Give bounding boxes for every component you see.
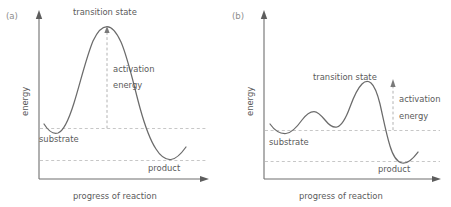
panel-a-substrate-label: substrate	[39, 134, 79, 144]
panel-a-y-axis-title: energy	[20, 87, 30, 116]
reaction-energy-diagram-figure: (a) transition state a	[0, 0, 451, 207]
panel-a: (a) transition state a	[6, 7, 209, 201]
panel-b: (b) transition state a	[232, 10, 441, 201]
panel-b-y-axis-title: energy	[245, 87, 255, 116]
panel-a-x-axis	[39, 176, 209, 182]
panel-b-x-axis-title: progress of reaction	[299, 191, 383, 201]
panel-b-activation-label-line1: activation	[399, 94, 440, 104]
panel-a-activation-label-line1: activation	[113, 64, 154, 74]
panel-b-product-label: product	[378, 164, 411, 174]
panel-b-label: (b)	[232, 11, 244, 21]
panel-b-y-axis	[261, 10, 267, 179]
panel-b-reaction-curve	[270, 81, 418, 163]
panel-a-x-axis-title: progress of reaction	[73, 191, 157, 201]
panel-a-y-axis	[36, 10, 42, 179]
panel-b-activation-energy-guide	[390, 79, 395, 130]
panel-b-activation-label-line2: energy	[399, 111, 428, 121]
panel-b-substrate-label: substrate	[269, 137, 309, 147]
panel-b-x-axis	[264, 176, 441, 182]
panel-b-transition-state-label: transition state	[313, 72, 377, 82]
panel-a-label: (a)	[6, 11, 18, 21]
panel-a-product-label: product	[148, 163, 181, 173]
panel-a-activation-energy-guide	[104, 26, 109, 130]
panel-a-transition-state-label: transition state	[73, 7, 137, 17]
panel-a-activation-label-line2: energy	[113, 80, 142, 90]
